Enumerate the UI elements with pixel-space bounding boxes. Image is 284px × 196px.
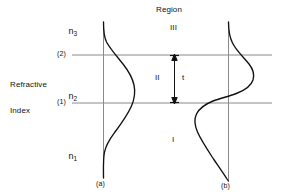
region-label-III: III [170,24,177,32]
axis-title-line-1: Refractive [10,81,47,89]
axis-tick-label-boundary-2: (2) [57,50,66,57]
axis-tick-label-n1: n1 [58,143,77,171]
figure-canvas: n3 (2) n2 (1) n1 Refractive Index Region… [0,0,284,196]
axis-title-refractive-index: Refractive Index [10,65,47,131]
region-label-II: II [155,74,160,82]
axis-tick-label-n3: n3 [58,18,77,46]
axis-tick-label-boundary-1: (1) [57,98,66,105]
panel-caption-a: (a) [96,180,105,187]
region-column-title: Region [156,6,182,14]
boundary-lines [72,55,272,103]
mode-curve-panel-b [195,22,254,181]
thickness-dimension-arrow [170,54,179,104]
region-label-I: I [172,136,174,144]
panel-caption-b: (b) [221,182,230,189]
axis-title-line-2: Index [10,107,47,115]
panel-axes [104,22,229,180]
mode-curve-panel-a [103,22,134,178]
thickness-label-t: t [182,74,184,82]
